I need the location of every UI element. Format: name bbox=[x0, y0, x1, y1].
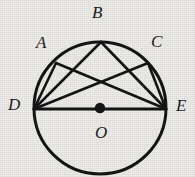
geometry-figure: A B C D E O bbox=[0, 0, 195, 177]
geometry-canvas bbox=[0, 0, 195, 177]
vertex-label-A: A bbox=[36, 34, 46, 51]
vertex-label-C: C bbox=[151, 33, 162, 50]
chord-D-C bbox=[34, 63, 148, 109]
vertex-label-B: B bbox=[92, 4, 102, 21]
vertex-label-E: E bbox=[176, 97, 186, 114]
vertex-label-D: D bbox=[8, 96, 20, 113]
vertex-label-O: O bbox=[95, 124, 107, 141]
center-point-O bbox=[95, 103, 105, 113]
